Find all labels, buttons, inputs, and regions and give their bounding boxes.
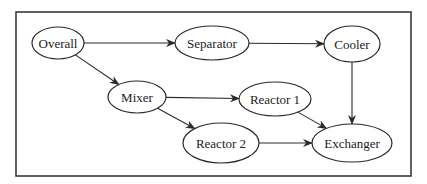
node-label: Exchanger	[324, 136, 380, 151]
node-separator: Separator	[175, 26, 249, 60]
node-label: Mixer	[121, 90, 153, 105]
node-label: Reactor 1	[250, 92, 300, 107]
node-label: Cooler	[334, 37, 370, 52]
node-exchanger: Exchanger	[312, 124, 392, 162]
node-reactor1: Reactor 1	[239, 82, 311, 116]
node-mixer: Mixer	[108, 81, 166, 113]
node-reactor2: Reactor 2	[183, 123, 259, 163]
edge-mixer-to-reactor2	[158, 108, 195, 128]
nodes-layer: OverallSeparatorCoolerMixerReactor 1Reac…	[32, 26, 392, 163]
node-overall: Overall	[32, 27, 84, 59]
flow-diagram: OverallSeparatorCoolerMixerReactor 1Reac…	[0, 0, 427, 184]
edge-mixer-to-reactor1	[166, 97, 239, 98]
node-label: Overall	[39, 36, 78, 51]
edge-separator-to-cooler	[249, 43, 324, 44]
node-label: Reactor 2	[196, 136, 246, 151]
node-label: Separator	[187, 36, 237, 51]
edge-overall-to-mixer	[75, 55, 118, 85]
edge-reactor1-to-exchanger	[298, 112, 326, 128]
node-cooler: Cooler	[324, 26, 380, 62]
